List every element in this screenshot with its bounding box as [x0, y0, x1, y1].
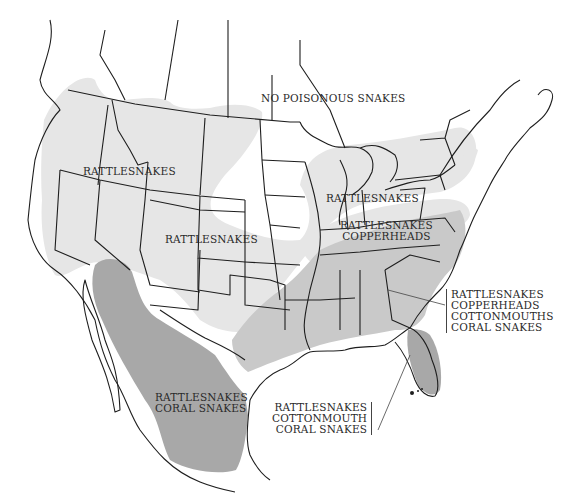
label-southeast: RATTLESNAKES COPPERHEADS COTTONMOUTHS CO…: [446, 289, 554, 333]
label-line: RATTLESNAKES: [326, 193, 419, 204]
florida-keys: [410, 388, 423, 395]
label-line: RATTLESNAKES: [83, 166, 176, 177]
label-line: CORAL SNAKES: [272, 424, 367, 435]
label-line: CORAL SNAKES: [155, 403, 248, 414]
label-mexico: RATTLESNAKES CORAL SNAKES: [155, 392, 248, 414]
label-line: COPPERHEADS: [340, 231, 433, 242]
label-central-rattlesnakes: RATTLESNAKES: [165, 234, 258, 245]
label-no-poisonous-snakes: NO POISONOUS SNAKES: [261, 93, 405, 104]
label-west-rattlesnakes: RATTLESNAKES: [83, 166, 176, 177]
label-line: CORAL SNAKES: [451, 322, 554, 333]
label-great-lakes-rattlesnakes: RATTLESNAKES: [326, 193, 419, 204]
label-line: RATTLESNAKES: [165, 234, 258, 245]
label-line: NO POISONOUS SNAKES: [261, 93, 405, 104]
label-midatlantic: RATTLESNAKES COPPERHEADS: [340, 220, 433, 242]
label-florida: RATTLESNAKES COTTONMOUTH CORAL SNAKES: [272, 402, 372, 435]
